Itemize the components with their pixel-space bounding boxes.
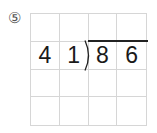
- division-vinculum: [88, 40, 148, 42]
- grid-cell[interactable]: [31, 97, 60, 125]
- grid-cell[interactable]: [31, 70, 60, 98]
- grid-cell[interactable]: [89, 97, 118, 125]
- grid-cell[interactable]: [60, 14, 89, 42]
- grid-cell[interactable]: [89, 14, 118, 42]
- grid-cell[interactable]: [89, 70, 118, 98]
- grid-cell[interactable]: [60, 70, 89, 98]
- grid-cell[interactable]: [60, 97, 89, 125]
- grid-cell[interactable]: [117, 70, 146, 98]
- grid-cell[interactable]: [117, 97, 146, 125]
- grid-cell[interactable]: [117, 14, 146, 42]
- grid-cell[interactable]: [31, 14, 60, 42]
- problem-number-label: ⑤: [6, 10, 22, 26]
- dividend-digit-ones: 6: [117, 42, 146, 70]
- divisor-digit-tens: 4: [31, 42, 60, 70]
- division-bracket-icon: [83, 40, 93, 71]
